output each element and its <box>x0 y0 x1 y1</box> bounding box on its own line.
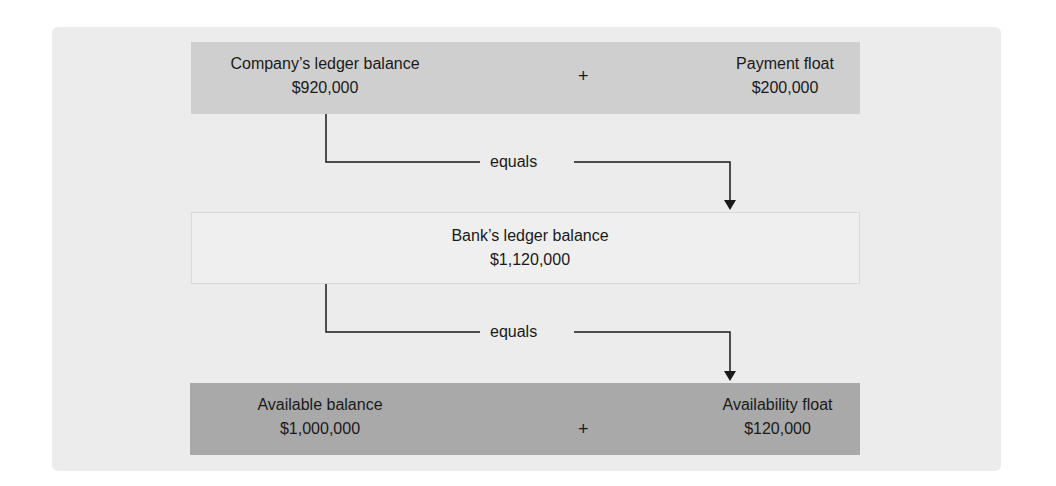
equals-label-2: equals <box>484 322 543 342</box>
equals-label-1: equals <box>484 152 543 172</box>
connector-1-left-line <box>326 114 480 162</box>
connector-2-right-line <box>574 332 730 373</box>
connector-1-right-line <box>574 162 730 202</box>
connector-lines <box>0 0 1056 486</box>
arrow-down-icon <box>724 200 736 210</box>
connector-2-left-line <box>326 284 480 332</box>
arrow-down-icon <box>724 371 736 381</box>
